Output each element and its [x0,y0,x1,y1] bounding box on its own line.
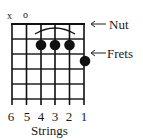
muted-string-marker: x [7,11,12,21]
string-number-6: 6 [8,110,15,123]
finger-dot-string-3 [50,40,61,51]
string-number-5: 5 [24,110,31,123]
frets-arrow-icon [91,50,106,56]
string-number-1: 1 [81,110,88,123]
string-lines [12,24,84,105]
nut-label: Nut [109,18,129,31]
string-number-3: 3 [52,110,59,123]
string-number-4: 4 [38,110,45,123]
strings-caption: Strings [31,124,68,137]
open-string-marker: o [23,10,28,20]
finger-dot-string-4 [36,40,47,51]
finger-dot-string-1 [80,56,91,67]
finger-dot-string-2 [64,40,75,51]
string-number-2: 2 [66,110,73,123]
frets-label: Frets [107,47,133,60]
nut-arrow-icon [91,21,106,27]
